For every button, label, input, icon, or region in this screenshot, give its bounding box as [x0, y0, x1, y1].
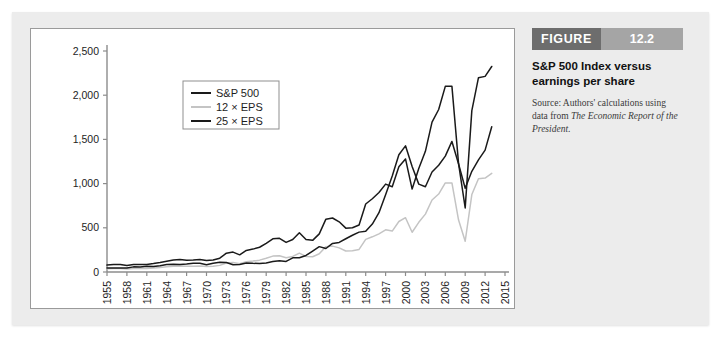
x-tick-label: 1985: [300, 281, 312, 305]
y-tick-label: 1,500: [73, 133, 99, 145]
x-tick-label: 1991: [340, 281, 352, 305]
chart-card: 05001,0001,5002,0002,5001955195819611964…: [30, 28, 515, 309]
x-tick-label: 2006: [439, 281, 451, 305]
x-tick-label: 1967: [181, 281, 193, 305]
legend-label: 12 × EPS: [216, 101, 263, 113]
legend-label: 25 × EPS: [216, 115, 263, 127]
line-chart: 05001,0001,5002,0002,5001955195819611964…: [31, 29, 516, 310]
figure-banner: FIGURE 12.2: [532, 28, 683, 50]
figure-caption-column: FIGURE 12.2 S&P 500 Index versus earning…: [532, 28, 704, 135]
x-tick-label: 2012: [479, 281, 491, 305]
figure-title: S&P 500 Index versus earnings per share: [532, 59, 682, 89]
x-tick-label: 1964: [161, 281, 173, 305]
x-tick-label: 1970: [201, 281, 213, 305]
series-line-12-eps: [107, 173, 492, 269]
x-tick-label: 1982: [280, 281, 292, 305]
x-tick-label: 1973: [220, 281, 232, 305]
y-tick-label: 2,000: [73, 89, 99, 101]
y-tick-label: 2,500: [73, 45, 99, 57]
figure-banner-number: 12.2: [601, 28, 683, 50]
x-tick-label: 1961: [141, 281, 153, 305]
figure-banner-word: FIGURE: [532, 28, 601, 50]
x-tick-label: 2009: [459, 281, 471, 305]
x-tick-label: 2000: [400, 281, 412, 305]
x-tick-label: 1979: [260, 281, 272, 305]
legend-label: S&P 500: [216, 87, 259, 99]
figure-panel: 05001,0001,5002,0002,5001955195819611964…: [12, 12, 709, 325]
x-tick-label: 2003: [419, 281, 431, 305]
x-tick-label: 2015: [499, 281, 511, 305]
y-tick-label: 0: [93, 266, 99, 278]
x-tick-label: 1955: [101, 281, 113, 305]
chart-plot-area: 05001,0001,5002,0002,5001955195819611964…: [31, 29, 516, 310]
series-line-25-eps: [107, 66, 492, 265]
x-tick-label: 1994: [360, 281, 372, 305]
x-tick-label: 1958: [121, 281, 133, 305]
page-root: 05001,0001,5002,0002,5001955195819611964…: [0, 0, 725, 347]
x-tick-label: 1988: [320, 281, 332, 305]
x-tick-label: 1976: [240, 281, 252, 305]
figure-source-suffix: .: [568, 124, 570, 134]
figure-source: Source: Authors' calculations using data…: [532, 97, 684, 135]
x-tick-label: 1997: [380, 281, 392, 305]
y-tick-label: 500: [81, 221, 99, 233]
y-tick-label: 1,000: [73, 177, 99, 189]
